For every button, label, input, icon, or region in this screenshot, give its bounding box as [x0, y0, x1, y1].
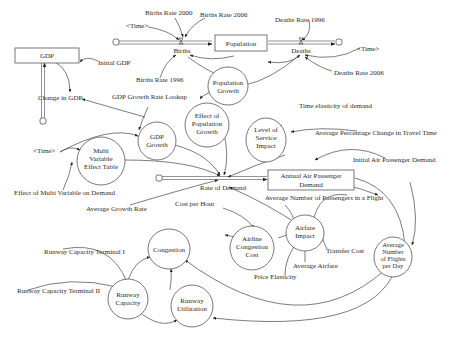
stock-gdp-label: GDP: [40, 52, 54, 60]
flow-change-in-gdp-label: Change in GDP: [38, 94, 82, 102]
flow-rate-of-demand-label: Rate of Demand: [200, 184, 246, 192]
svg-text:Growth: Growth: [196, 128, 218, 136]
svg-text:Utilization: Utilization: [177, 305, 207, 313]
demand-source-cloud-icon: [156, 175, 162, 181]
aux-multi-variable-effect-table[interactable]: Multi Variable Effect Table: [77, 137, 125, 185]
deaths-sink-cloud-icon: [336, 39, 342, 45]
cost-per-hour-label: Cost per Hour: [175, 200, 215, 208]
svg-text:Effect Table: Effect Table: [84, 163, 118, 171]
avg-passengers-per-flight-label: Average Number of Passengers in a Flight: [265, 194, 384, 202]
svg-text:of Flights: of Flights: [380, 255, 406, 262]
svg-text:Capacity: Capacity: [116, 299, 141, 307]
gdp-growth-rate-lookup-label: GDP Growth Rate Lookup: [112, 93, 187, 101]
effect-of-multi-variable-on-demand-label: Effect of Multi Variable on Demand: [14, 189, 116, 197]
svg-text:Airfare: Airfare: [295, 224, 315, 232]
average-growth-rate-label: Average Growth Rate: [86, 205, 147, 213]
deaths-flow-pipe: [268, 38, 342, 45]
deaths-rate-1996-label: Deaths Rate 1996: [275, 16, 325, 24]
svg-text:Impact: Impact: [256, 142, 275, 150]
births-flow-pipe: [113, 38, 212, 45]
aux-runway-utilization[interactable]: Runway Utilization: [171, 285, 213, 327]
flow-births-label: Births: [173, 47, 190, 55]
svg-text:Average: Average: [382, 241, 404, 248]
demand-flow-pipe: [156, 175, 267, 181]
flow-deaths-label: Deaths: [291, 47, 311, 55]
svg-text:Runway: Runway: [180, 297, 204, 305]
births-rate-1996-label: Births Rate 1996: [136, 76, 184, 84]
stock-annual-air-passenger-demand[interactable]: Annual Air Passenger Demand: [268, 170, 354, 190]
births-source-cloud-icon: [113, 39, 119, 45]
svg-text:Population: Population: [192, 120, 223, 128]
svg-text:Congestion: Congestion: [236, 243, 268, 251]
stock-demand-label-line2: Demand: [299, 181, 323, 189]
transfer-cost-label: Transfer Cost: [326, 247, 364, 255]
aux-gdp-growth[interactable]: GDP Growth: [138, 122, 176, 160]
aux-airline-congestion-cost[interactable]: Airline Congestion Cost: [230, 226, 274, 270]
average-airfare-label: Average Airfare: [293, 262, 338, 270]
stock-flow-diagram: GDP Population Annual Air Passenger Dema…: [0, 0, 451, 340]
stock-demand-label-line1: Annual Air Passenger: [280, 172, 342, 180]
births-rate-2000-label: Births Rate 2000: [145, 9, 193, 17]
svg-text:Number: Number: [382, 248, 404, 255]
svg-text:per Day: per Day: [383, 262, 405, 269]
time-births-label: <Time>: [126, 22, 148, 30]
aux-population-growth[interactable]: Population Growth: [208, 67, 248, 105]
time-multi-variable-label: <Time>: [33, 147, 55, 155]
stock-population[interactable]: Population: [215, 35, 267, 51]
svg-text:GDP: GDP: [150, 133, 164, 141]
stock-gdp[interactable]: GDP: [15, 48, 79, 63]
svg-text:Service: Service: [256, 134, 277, 142]
initial-gdp-label: Initial GDP: [98, 59, 131, 67]
svg-text:Multi: Multi: [93, 147, 109, 155]
avg-percentage-change-travel-time-label: Average Percentage Change in Travel Time: [315, 129, 437, 137]
svg-text:Population: Population: [213, 79, 244, 87]
aux-effect-of-population-growth[interactable]: Effect of Population Growth: [185, 103, 229, 147]
aux-runway-capacity[interactable]: Runway Capacity: [108, 279, 148, 319]
svg-text:Variable: Variable: [89, 155, 112, 163]
svg-text:Cost: Cost: [246, 251, 259, 259]
svg-text:Congestion: Congestion: [153, 246, 185, 254]
svg-text:Runway: Runway: [116, 291, 140, 299]
svg-text:Airline: Airline: [242, 235, 262, 243]
svg-text:Growth: Growth: [146, 141, 168, 149]
price-elasticity-label: Price Elasticity: [254, 273, 297, 281]
aux-congestion[interactable]: Congestion: [148, 229, 190, 269]
aux-airfare-impact[interactable]: Airfare Impact: [286, 215, 324, 251]
svg-text:Effect of: Effect of: [195, 112, 220, 120]
initial-air-passenger-demand-label: Initial Air Passenger Demand: [353, 156, 436, 164]
svg-text:Impact: Impact: [295, 232, 314, 240]
births-rate-2006-label: Births Rate 2006: [200, 11, 248, 19]
aux-average-number-of-flights-per-day[interactable]: Average Number of Flights per Day: [374, 237, 412, 277]
aux-level-of-service-impact[interactable]: Level of Service Impact: [246, 118, 286, 162]
time-deaths-label: <Time>: [357, 45, 379, 53]
deaths-rate-2006-label: Deaths Rate 2006: [334, 69, 384, 77]
runway-capacity-terminal-2-label: Runway Capacity Terminal II: [17, 287, 101, 295]
svg-text:Level of: Level of: [254, 126, 278, 134]
time-elasticity-of-demand-label: Time elasticity of demand: [299, 102, 373, 110]
gdp-source-cloud-icon: [40, 118, 46, 124]
svg-text:Growth: Growth: [217, 87, 239, 95]
runway-capacity-terminal-1-label: Runway Capacity Terminal I: [44, 248, 126, 256]
stock-population-label: Population: [226, 40, 257, 48]
